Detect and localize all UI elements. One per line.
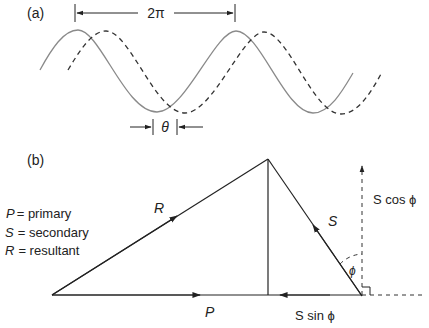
- solid-sine-wave: [40, 30, 353, 113]
- panel-b-label: (b): [27, 152, 44, 168]
- panel-a-label: (a): [27, 5, 44, 21]
- s-cos-label: S cos ϕ: [373, 192, 416, 207]
- s-sin-label: S sin ϕ: [295, 308, 335, 323]
- phi-label: ϕ: [349, 264, 356, 278]
- svg-text:S= secondary: S= secondary: [5, 225, 89, 240]
- period-label: 2π: [147, 5, 165, 21]
- phase-shift-marker: θ: [130, 119, 203, 135]
- r-label: R: [154, 200, 164, 216]
- legend: P= primary S= secondary R= resultant: [5, 206, 89, 258]
- right-angle-marker: [362, 287, 370, 295]
- phasor-triangle: [52, 159, 362, 296]
- s-label: S: [328, 213, 338, 229]
- phase-label: θ: [161, 119, 169, 135]
- phasor-diagram: (a) 2π θ (b) P= primary S= secondary R= …: [0, 0, 429, 328]
- svg-text:P= primary: P= primary: [6, 206, 72, 221]
- p-label: P: [205, 304, 215, 320]
- period-dimension: 2π: [75, 4, 235, 22]
- svg-text:R= resultant: R= resultant: [5, 243, 80, 258]
